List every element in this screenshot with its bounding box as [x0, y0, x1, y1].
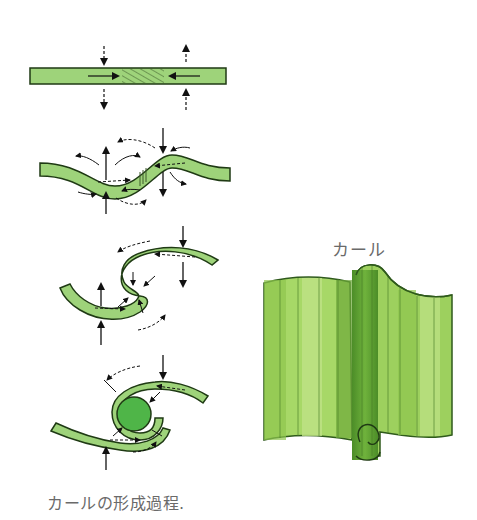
curl-label: カール	[332, 236, 386, 261]
stage-1-flat-sheet	[30, 46, 226, 110]
stage-4-curl-formed	[51, 355, 208, 470]
figure-caption: カールの形成過程.	[47, 490, 185, 514]
curl-illustration	[264, 265, 452, 460]
diagram-canvas	[0, 0, 477, 520]
curl-formation-figure: カール カールの形成過程.	[0, 0, 477, 520]
stage-2-buckling	[40, 128, 230, 214]
stage-3-s-fold	[60, 226, 218, 345]
